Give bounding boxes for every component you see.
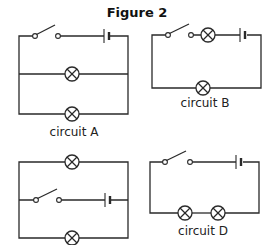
cell-icon: [240, 28, 245, 42]
wire: [152, 35, 196, 88]
circuit-b-label: circuit B: [181, 96, 230, 110]
circuit-a: circuit A: [19, 25, 128, 139]
lamp-icon: [201, 28, 215, 42]
circuit-c: [19, 155, 128, 245]
switch-icon: [163, 151, 193, 164]
wire: [19, 36, 65, 114]
figure-2-diagram: Figure 2 circuit A: [0, 0, 273, 245]
lamp-icon: [65, 231, 79, 245]
wire: [225, 162, 259, 213]
lamp-icon: [65, 67, 79, 81]
switch-icon: [33, 25, 61, 38]
figure-title: Figure 2: [107, 5, 168, 20]
lamp-icon: [211, 206, 225, 220]
cell-icon: [104, 29, 109, 43]
circuit-d-label: circuit D: [178, 224, 228, 238]
wire: [150, 162, 178, 213]
cell-icon: [105, 193, 110, 207]
lamp-icon: [65, 155, 79, 169]
lamp-icon: [196, 81, 210, 95]
circuit-d: circuit D: [150, 151, 259, 238]
wire: [79, 36, 128, 114]
circuit-b: circuit B: [152, 24, 261, 110]
lamp-icon: [65, 107, 79, 121]
lamp-icon: [178, 206, 192, 220]
switch-icon: [34, 189, 62, 202]
wire: [210, 35, 261, 88]
circuit-a-label: circuit A: [50, 125, 100, 139]
switch-icon: [166, 24, 194, 37]
cell-icon: [236, 155, 241, 169]
